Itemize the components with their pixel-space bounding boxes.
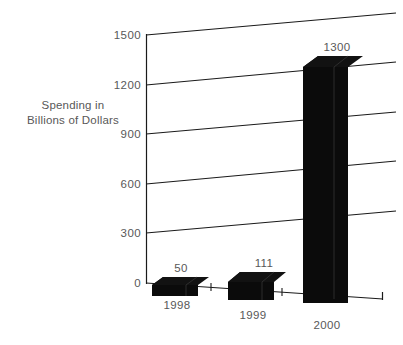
y-tick-label-1200: 1200 [114,79,141,91]
y-tick-label-300: 300 [121,227,141,239]
y-axis-title-line-1: Spending in [42,99,105,111]
y-tick-label-0: 0 [134,277,141,289]
value-label-2000: 1300 [323,41,350,53]
y-axis-title-line-2: Billions of Dollars [27,114,119,126]
bar-2000[interactable] [303,56,363,303]
bar-1999[interactable] [228,272,286,300]
bar-chart-figure: 1500 1200 900 600 300 0 Spending in Bill… [0,0,403,345]
bar-1999-front [228,282,274,300]
gridline-300 [146,211,396,233]
category-label-2000: 2000 [313,319,340,331]
x-category-labels: 1998 1999 2000 [163,299,340,331]
gridline-1500 [146,13,396,35]
y-axis-title: Spending in Billions of Dollars [27,99,119,126]
gridline-900 [146,112,396,134]
y-tick-label-1500: 1500 [114,29,141,41]
category-label-1999: 1999 [239,309,266,321]
category-label-1998: 1998 [163,299,190,311]
gridline-600 [146,161,396,184]
gridline-1200 [146,62,396,85]
value-label-1999: 111 [255,257,274,269]
y-tick-label-900: 900 [121,128,141,140]
chart-canvas: 1500 1200 900 600 300 0 Spending in Bill… [0,0,403,345]
y-tick-labels: 1500 1200 900 600 300 0 [114,29,141,289]
value-label-1998: 50 [174,262,188,274]
bar-2000-front [303,67,348,303]
bar-1998-top [152,277,209,285]
bar-1999-top [228,272,286,282]
plot-gridlines [146,13,396,233]
bar-1998-front [152,285,198,296]
y-tick-label-600: 600 [121,178,141,190]
